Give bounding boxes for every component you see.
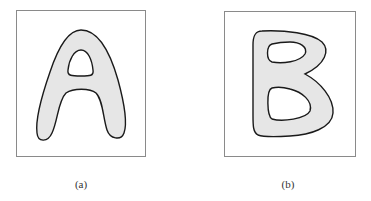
caption-b: (b) bbox=[268, 178, 308, 190]
letter-b-shape bbox=[0, 0, 371, 201]
